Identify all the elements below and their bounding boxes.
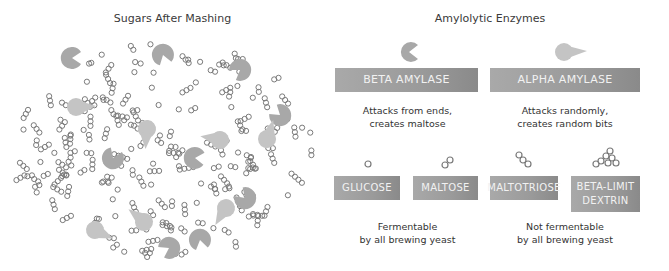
alpha-amylase-description: Attacks randomly, creates random bits: [500, 104, 630, 130]
sugar-mash-cloud-illustration: [0, 0, 330, 260]
beta-limit-dextrin-label: BETA-LIMIT DEXTRIN: [571, 176, 640, 212]
pacman-shape-icon: [397, 40, 421, 64]
beta-amylase-description: Attacks from ends, creates maltose: [345, 104, 470, 130]
not-fermentable-caption: Not fermentable by all brewing yeast: [500, 220, 630, 246]
maltose-label: MALTOSE: [413, 176, 478, 200]
beta-amylase-label: BETA AMYLASE: [335, 68, 478, 92]
branched-ring-cluster-icon: [592, 146, 622, 170]
triple-ring-icon: [514, 150, 534, 170]
single-ring-icon: [362, 158, 374, 170]
teardrop-shape-icon: [553, 40, 589, 64]
glucose-label: GLUCOSE: [334, 176, 400, 200]
double-ring-icon: [440, 154, 456, 170]
enzymes-title: Amylolytic Enzymes: [390, 12, 590, 25]
fermentable-caption: Fermentable by all brewing yeast: [345, 220, 470, 246]
maltotriose-label: MALTOTRIOSE: [490, 176, 558, 200]
alpha-amylase-label: ALPHA AMYLASE: [490, 68, 640, 92]
